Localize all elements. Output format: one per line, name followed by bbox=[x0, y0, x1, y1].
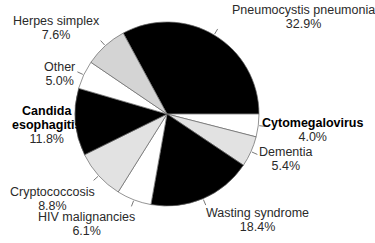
label-pct: 32.9% bbox=[232, 17, 375, 31]
label-pneumocystis: Pneumocystis pneumonia 32.9% bbox=[232, 3, 375, 31]
callout-tick bbox=[131, 201, 133, 207]
label-herpes: Herpes simplex 7.6% bbox=[13, 14, 99, 42]
label-cytomegalovirus: Cytomegalovirus 4.0% bbox=[262, 116, 363, 144]
label-pct: 11.8% bbox=[12, 132, 81, 146]
label-pct: 7.6% bbox=[13, 28, 99, 42]
label-pct: 8.8% bbox=[10, 199, 95, 213]
callout-tick bbox=[252, 152, 257, 154]
callout-tick bbox=[203, 200, 205, 206]
label-name: Other bbox=[44, 60, 75, 74]
label-name: Herpes simplex bbox=[13, 14, 99, 28]
callout-tick bbox=[215, 29, 218, 34]
label-name: Cryptococcosis bbox=[10, 185, 95, 199]
label-pct: 5.0% bbox=[44, 74, 75, 88]
label-other: Other 5.0% bbox=[44, 60, 75, 88]
label-name: Pneumocystis pneumonia bbox=[232, 3, 375, 17]
label-pct: 5.4% bbox=[259, 159, 313, 173]
label-candida: Candida esophagitis 11.8% bbox=[12, 104, 81, 146]
label-hiv-malignancies: HIV malignancies 6.1% bbox=[38, 210, 135, 238]
callout-tick bbox=[77, 72, 82, 75]
pie-slices bbox=[75, 22, 259, 206]
label-wasting: Wasting syndrome 18.4% bbox=[206, 206, 309, 234]
label-name: Dementia bbox=[259, 145, 313, 159]
label-pct: 4.0% bbox=[262, 130, 363, 144]
label-dementia: Dementia 5.4% bbox=[259, 145, 313, 173]
callout-tick bbox=[94, 176, 98, 180]
label-name-2: esophagitis bbox=[12, 118, 81, 132]
label-pct: 18.4% bbox=[206, 220, 309, 234]
callout-tick bbox=[101, 41, 105, 45]
label-name: Cytomegalovirus bbox=[262, 116, 363, 130]
label-name: Wasting syndrome bbox=[206, 206, 309, 220]
label-pct: 6.1% bbox=[38, 224, 135, 238]
label-name: Candida bbox=[12, 104, 81, 118]
label-cryptococcosis: Cryptococcosis 8.8% bbox=[10, 185, 95, 213]
